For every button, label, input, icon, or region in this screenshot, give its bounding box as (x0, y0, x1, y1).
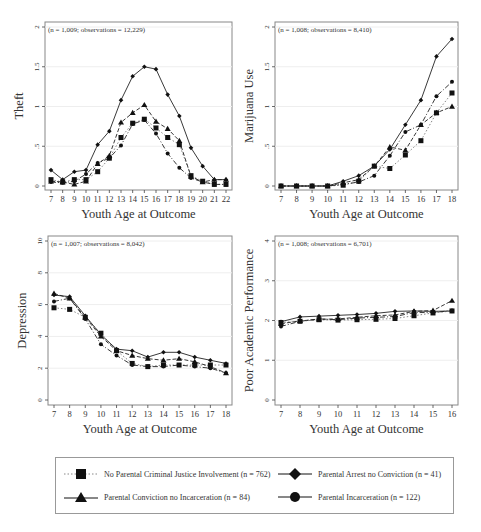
svg-text:.5: .5 (263, 143, 271, 149)
legend-item-conviction: Parental Conviction no Incarceration (n … (64, 491, 250, 503)
svg-text:13: 13 (391, 409, 400, 419)
svg-text:19: 19 (187, 194, 196, 204)
svg-text:17: 17 (206, 409, 215, 419)
svg-text:17: 17 (163, 194, 172, 204)
svg-text:(n = 1,008; observations = 8,4: (n = 1,008; observations = 8,410) (278, 26, 372, 34)
svg-text:Youth Age at Outcome: Youth Age at Outcome (81, 207, 196, 221)
svg-text:20: 20 (198, 194, 207, 204)
svg-text:6: 6 (36, 302, 44, 306)
svg-text:10: 10 (323, 194, 332, 204)
svg-text:(n = 1,007; observations = 8,0: (n = 1,007; observations = 8,042) (51, 240, 145, 248)
svg-text:15: 15 (429, 409, 438, 419)
triangle-marker-icon (64, 491, 98, 503)
svg-text:Marijuana Use: Marijuana Use (242, 69, 256, 143)
svg-text:11: 11 (353, 409, 361, 419)
svg-text:Theft: Theft (12, 92, 26, 120)
legend-label: Parental Incarceration (n = 122) (318, 493, 420, 502)
svg-text:(n = 1,008; observations = 6,7: (n = 1,008; observations = 6,701) (278, 240, 372, 248)
svg-text:14: 14 (159, 409, 168, 419)
svg-text:Youth Age at Outcome: Youth Age at Outcome (309, 207, 424, 221)
svg-text:13: 13 (117, 194, 126, 204)
svg-text:16: 16 (417, 194, 426, 204)
legend-item-arrest: Parental Arrest no Conviction (n = 41) (278, 468, 441, 480)
svg-text:9: 9 (83, 409, 87, 419)
svg-text:Youth Age at Outcome: Youth Age at Outcome (309, 422, 424, 436)
svg-text:2: 2 (36, 366, 44, 370)
svg-text:1.5: 1.5 (263, 62, 271, 71)
svg-text:.5: .5 (33, 143, 41, 149)
svg-text:2: 2 (33, 25, 41, 29)
poor-academic-performance-chart: 0123478910111213141516Youth Age at Outco… (240, 228, 481, 457)
svg-text:14: 14 (386, 194, 395, 204)
svg-text:9: 9 (72, 194, 76, 204)
svg-text:15: 15 (175, 409, 184, 419)
svg-text:2: 2 (263, 25, 271, 29)
svg-text:9: 9 (317, 409, 321, 419)
marijuana-use-chart: 0.511.52789101112131415161718Youth Age a… (240, 0, 481, 232)
svg-text:10: 10 (36, 237, 44, 245)
svg-text:16: 16 (448, 409, 457, 419)
svg-text:7: 7 (279, 409, 283, 419)
svg-text:21: 21 (210, 194, 219, 204)
svg-text:3: 3 (263, 279, 271, 283)
svg-text:7: 7 (49, 194, 53, 204)
svg-text:4: 4 (36, 334, 44, 338)
legend-label: Parental Arrest no Conviction (n = 41) (318, 470, 441, 479)
svg-text:7: 7 (279, 194, 283, 204)
svg-text:17: 17 (432, 194, 441, 204)
svg-text:8: 8 (294, 194, 298, 204)
circle-marker-icon (278, 491, 312, 503)
svg-text:10: 10 (82, 194, 91, 204)
svg-text:11: 11 (339, 194, 347, 204)
svg-text:14: 14 (410, 409, 419, 419)
svg-text:18: 18 (175, 194, 184, 204)
svg-text:13: 13 (144, 409, 153, 419)
svg-text:11: 11 (112, 409, 120, 419)
svg-text:7: 7 (52, 409, 56, 419)
svg-text:18: 18 (222, 409, 231, 419)
depression-chart: 0246810789101112131415161718Youth Age at… (0, 228, 240, 457)
svg-text:0: 0 (33, 184, 41, 188)
svg-text:16: 16 (190, 409, 199, 419)
svg-text:9: 9 (310, 194, 314, 204)
svg-text:1: 1 (33, 104, 41, 108)
svg-text:18: 18 (448, 194, 457, 204)
svg-text:1.5: 1.5 (33, 62, 41, 71)
svg-text:12: 12 (354, 194, 363, 204)
square-marker-icon (64, 468, 98, 480)
svg-text:0: 0 (36, 398, 44, 402)
theft-chart: 0.511.5278910111213141516171819202122You… (0, 0, 240, 232)
svg-text:1: 1 (263, 358, 271, 362)
svg-text:10: 10 (334, 409, 343, 419)
svg-text:13: 13 (370, 194, 379, 204)
svg-text:Depression: Depression (15, 292, 29, 349)
svg-text:2: 2 (263, 318, 271, 322)
legend-label: Parental Conviction no Incarceration (n … (104, 493, 250, 502)
chart-legend: No Parental Criminal Justice Involvement… (55, 457, 454, 514)
svg-text:0: 0 (263, 398, 271, 402)
svg-text:12: 12 (105, 194, 114, 204)
svg-text:22: 22 (222, 194, 231, 204)
legend-item-incarceration: Parental Incarceration (n = 122) (278, 491, 420, 503)
svg-text:8: 8 (36, 271, 44, 275)
svg-text:11: 11 (94, 194, 102, 204)
legend-label: No Parental Criminal Justice Involvement… (104, 470, 270, 479)
svg-text:Poor Academic Performance: Poor Academic Performance (242, 248, 256, 392)
svg-text:1: 1 (263, 104, 271, 108)
svg-text:0: 0 (263, 184, 271, 188)
svg-text:4: 4 (263, 239, 271, 243)
svg-text:15: 15 (401, 194, 410, 204)
svg-text:14: 14 (128, 194, 137, 204)
svg-text:Youth Age at Outcome: Youth Age at Outcome (83, 422, 198, 436)
svg-text:12: 12 (372, 409, 381, 419)
svg-text:8: 8 (298, 409, 302, 419)
svg-text:15: 15 (140, 194, 149, 204)
svg-text:8: 8 (68, 409, 72, 419)
diamond-marker-icon (278, 468, 312, 480)
svg-text:16: 16 (152, 194, 161, 204)
svg-text:10: 10 (97, 409, 106, 419)
svg-text:12: 12 (128, 409, 137, 419)
legend-item-no-involvement: No Parental Criminal Justice Involvement… (64, 468, 270, 480)
svg-text:(n = 1,009; observations = 12,: (n = 1,009; observations = 12,229) (48, 26, 146, 34)
svg-text:8: 8 (61, 194, 65, 204)
